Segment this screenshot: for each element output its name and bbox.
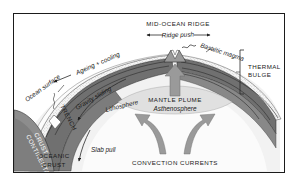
figure-root: MID-OCEAN RIDGE Ridge push Basaltic magm… xyxy=(0,0,298,185)
figure-frame: MID-OCEAN RIDGE Ridge push Basaltic magm… xyxy=(13,13,285,173)
label-asthenosphere: Asthenosphere xyxy=(153,105,197,113)
label-thermal-bulge-line1: THERMAL xyxy=(248,63,281,70)
label-oceanic-crust-line2: CRUST xyxy=(42,161,66,168)
label-mantle-plume: MANTLE PLUME xyxy=(148,96,202,103)
tectonics-diagram: MID-OCEAN RIDGE Ridge push Basaltic magm… xyxy=(14,14,285,173)
label-thermal-bulge-line2: BULGE xyxy=(248,71,271,78)
label-slab-pull: Slab pull xyxy=(91,146,116,154)
label-oceanic-crust-line1: OCEANIC xyxy=(38,152,69,159)
label-convection-currents: CONVECTION CURRENTS xyxy=(132,159,218,166)
label-mid-ocean-ridge: MID-OCEAN RIDGE xyxy=(146,20,209,27)
